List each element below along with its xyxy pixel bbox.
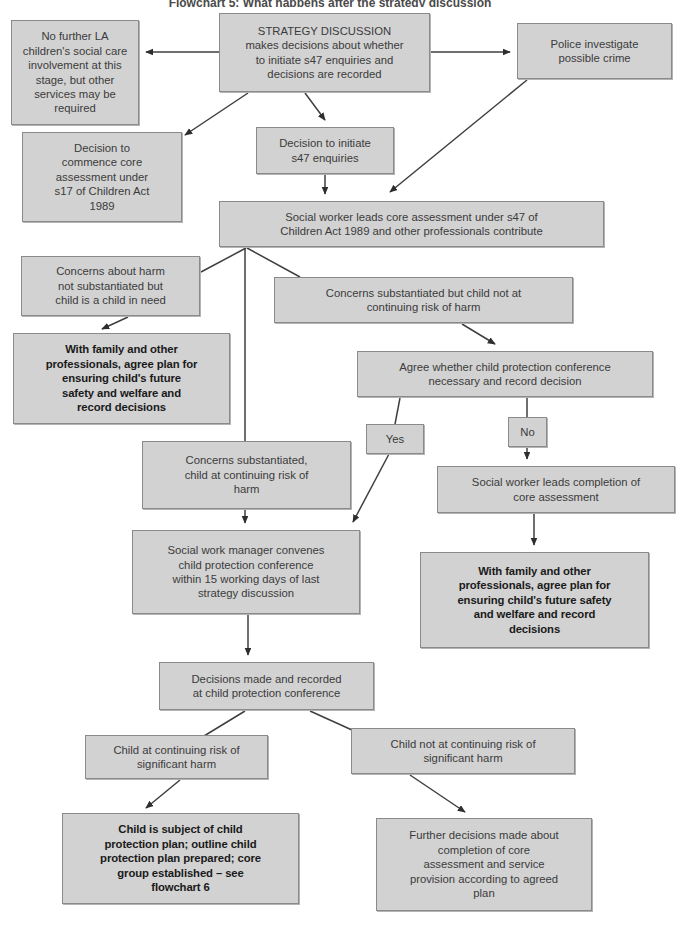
node-no-branch[interactable]: No xyxy=(508,417,547,447)
node-social-worker-leads-core-assessment[interactable]: Social worker leads core assessment unde… xyxy=(219,201,604,247)
edge-child-not-at-risk-to-further-decisions xyxy=(410,775,465,812)
edge-yes-to-convenes-conference xyxy=(353,454,389,522)
edge-not-substantiated-to-with-family-left xyxy=(102,317,128,329)
node-further-decisions-made[interactable]: Further decisions made about completion … xyxy=(376,818,592,911)
node-child-subject-of-protection-plan[interactable]: Child is subject of child protection pla… xyxy=(62,813,299,904)
edge-not-at-risk-to-agree-conference xyxy=(462,324,495,344)
page-title: Flowchart 5: What happens after the stra… xyxy=(95,0,565,7)
node-concerns-substantiated-not-continuing-risk[interactable]: Concerns substantiated but child not at … xyxy=(274,277,573,323)
node-child-at-continuing-risk[interactable]: Child at continuing risk of significant … xyxy=(85,735,268,779)
node-police-investigate[interactable]: Police investigate possible crime xyxy=(517,23,672,79)
node-concerns-not-substantiated[interactable]: Concerns about harm not substantiated bu… xyxy=(21,256,200,316)
node-social-worker-leads-completion[interactable]: Social worker leads completion of core a… xyxy=(437,466,675,513)
flowchart-canvas: Flowchart 5: What happens after the stra… xyxy=(0,0,681,942)
edge-strategy-to-commence-core xyxy=(185,93,248,135)
edge-police-to-core-assessment xyxy=(390,80,527,192)
edge-decisions-to-child-at-risk xyxy=(204,711,245,736)
node-concerns-substantiated-continuing-risk[interactable]: Concerns substantiated, child at continu… xyxy=(142,441,351,509)
node-strategy-discussion[interactable]: STRATEGY DISCUSSION makes decisions abou… xyxy=(219,13,430,92)
node-decision-initiate-s47[interactable]: Decision to initiate s47 enquiries xyxy=(256,127,394,174)
node-social-work-manager-convenes-conference[interactable]: Social work manager convenes child prote… xyxy=(132,530,360,614)
edge-strategy-to-initiate-s47 xyxy=(305,93,325,120)
edge-core-to-concerns-not-substantiated xyxy=(201,248,246,272)
node-child-not-at-continuing-risk[interactable]: Child not at continuing risk of signific… xyxy=(351,728,575,774)
node-no-further-la[interactable]: No further LA children's social care inv… xyxy=(11,20,139,125)
node-yes-branch[interactable]: Yes xyxy=(366,424,424,454)
edge-core-to-concerns-not-at-risk xyxy=(247,248,300,277)
node-agree-whether-conference-necessary[interactable]: Agree whether child protection conferenc… xyxy=(357,351,653,397)
edge-decisions-to-child-not-at-risk xyxy=(310,711,352,730)
node-with-family-agree-plan-left[interactable]: With family and other professionals, agr… xyxy=(13,333,230,424)
node-decisions-made-and-recorded[interactable]: Decisions made and recorded at child pro… xyxy=(159,662,374,710)
node-decision-commence-core-assessment[interactable]: Decision to commence core assessment und… xyxy=(22,132,182,222)
node-with-family-agree-plan-right[interactable]: With family and other professionals, agr… xyxy=(420,552,649,648)
edge-child-at-risk-to-plan xyxy=(146,780,180,808)
edge-agree-to-yes xyxy=(395,398,400,424)
